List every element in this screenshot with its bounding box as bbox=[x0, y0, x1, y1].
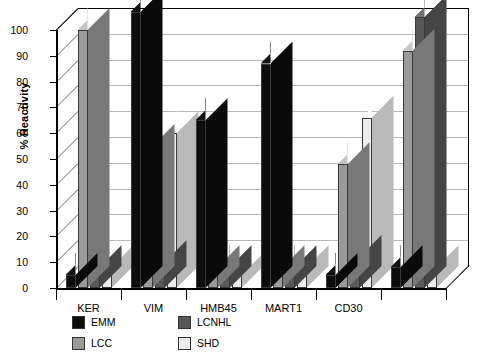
bar-top-face bbox=[66, 253, 76, 275]
bar-group6-EMM bbox=[391, 245, 401, 288]
bar-top-face bbox=[261, 42, 271, 64]
bar-side-face bbox=[413, 29, 435, 288]
bar-KER-EMM bbox=[66, 253, 76, 288]
bar-front-face bbox=[261, 64, 271, 288]
bar-top-face bbox=[131, 0, 141, 12]
bar-CD30-EMM bbox=[326, 253, 336, 288]
bar-front-face bbox=[403, 51, 413, 288]
bar-MART1-EMM bbox=[261, 42, 271, 288]
bar-top-face bbox=[391, 245, 401, 267]
legend-item-lcc: LCC bbox=[72, 337, 112, 350]
bar-side-face bbox=[206, 98, 228, 288]
bar-top-face bbox=[338, 142, 348, 164]
legend-swatch-lcnhl bbox=[178, 316, 191, 329]
chart-figure: 0102030405060708090100% ReactivityKERVIM… bbox=[0, 0, 480, 356]
legend-item-lcnhl: LCNHL bbox=[178, 316, 231, 329]
bar-top-face bbox=[415, 0, 425, 17]
legend-swatch-lcc bbox=[72, 337, 85, 350]
bar-top-face bbox=[362, 96, 372, 118]
legend-item-shd: SHD bbox=[178, 337, 219, 350]
bar-VIM-EMM bbox=[131, 0, 141, 288]
bars-layer bbox=[0, 0, 480, 356]
bar-front-face bbox=[196, 120, 206, 288]
bar-top-face bbox=[196, 98, 206, 120]
bar-front-face bbox=[66, 275, 76, 288]
legend-label-shd: SHD bbox=[197, 338, 219, 349]
bar-side-face bbox=[271, 42, 293, 288]
bar-side-face bbox=[88, 8, 110, 288]
bar-side-face bbox=[141, 0, 163, 288]
bar-front-face bbox=[131, 12, 141, 288]
legend-swatch-emm bbox=[72, 316, 85, 329]
bar-top-face bbox=[403, 29, 413, 51]
bar-front-face bbox=[78, 30, 88, 288]
legend-label-emm: EMM bbox=[91, 317, 116, 328]
legend-item-emm: EMM bbox=[72, 316, 116, 329]
legend-swatch-shd bbox=[178, 337, 191, 350]
bar-top-face bbox=[78, 8, 88, 30]
bar-front-face bbox=[391, 267, 401, 288]
bar-front-face bbox=[326, 275, 336, 288]
bar-KER-LCC bbox=[78, 8, 88, 288]
legend-label-lcc: LCC bbox=[91, 338, 112, 349]
bar-HMB45-EMM bbox=[196, 98, 206, 288]
bar-top-face bbox=[326, 253, 336, 275]
bar-group6-LCC bbox=[403, 29, 413, 288]
legend-label-lcnhl: LCNHL bbox=[197, 317, 231, 328]
